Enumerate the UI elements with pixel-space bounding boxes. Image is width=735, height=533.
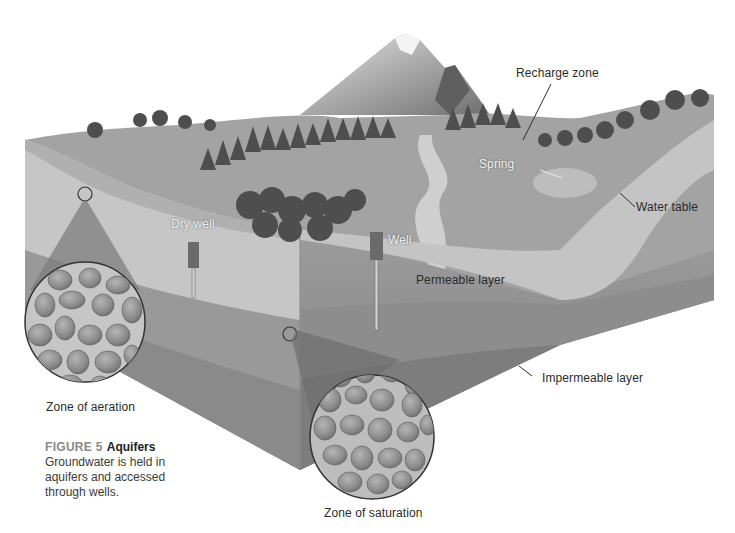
label-water-table: Water table [636, 200, 698, 214]
figure-caption-text: Groundwater is held in aquifers and acce… [45, 455, 165, 499]
label-spring: Spring [479, 157, 514, 171]
label-zone-of-saturation: Zone of saturation [324, 506, 423, 520]
label-impermeable-layer: Impermeable layer [542, 371, 643, 385]
figure-number: FIGURE 5 [45, 440, 103, 454]
figure-title: Aquifers [107, 440, 156, 454]
label-dry-well: Dry well [171, 217, 214, 231]
label-recharge-zone: Recharge zone [516, 66, 599, 80]
label-well: Well [388, 233, 412, 247]
label-permeable-layer: Permeable layer [416, 273, 505, 287]
label-zone-of-aeration: Zone of aeration [46, 400, 135, 414]
figure-caption: FIGURE 5Aquifers Groundwater is held in … [45, 440, 205, 500]
mountain [300, 33, 490, 115]
